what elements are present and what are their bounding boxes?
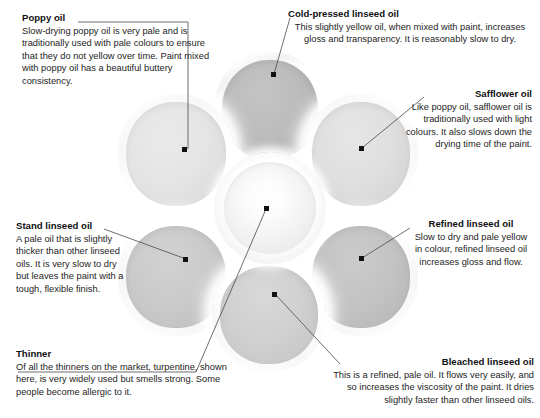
caption-body: Of all the thinners on the market, turpe… <box>16 361 232 399</box>
caption-body: Slow-drying poppy oil is very pale and i… <box>22 25 222 88</box>
dot-refined <box>359 256 364 261</box>
caption-safflower-oil: Safflower oil Like poppy oil, safflower … <box>396 88 532 151</box>
caption-title: Safflower oil <box>396 88 532 101</box>
caption-body: This slightly yellow oil, when mixed wit… <box>288 21 532 46</box>
dot-thinner <box>264 206 269 211</box>
caption-title: Bleached linseed oil <box>330 356 534 369</box>
caption-cold-pressed-linseed-oil: Cold-pressed linseed oil This slightly y… <box>288 8 532 46</box>
caption-body: Like poppy oil, safflower oil is traditi… <box>396 101 532 151</box>
dot-poppy <box>182 147 187 152</box>
caption-title: Thinner <box>16 348 232 361</box>
caption-body: A pale oil that is slightly thicker than… <box>16 233 132 296</box>
caption-title: Poppy oil <box>22 12 222 25</box>
dot-safflower <box>359 146 364 151</box>
dot-bleached <box>272 292 277 297</box>
figure-canvas: Poppy oil Slow-drying poppy oil is very … <box>0 0 540 418</box>
dot-cold-pressed <box>271 72 276 77</box>
caption-refined-linseed-oil: Refined linseed oil Slow to dry and pale… <box>410 218 532 268</box>
caption-title: Refined linseed oil <box>410 218 532 231</box>
caption-body: This is a refined, pale oil. It flows ve… <box>330 369 534 407</box>
leader-bleached <box>275 294 340 364</box>
caption-poppy-oil: Poppy oil Slow-drying poppy oil is very … <box>22 12 222 88</box>
caption-body: Slow to dry and pale yellow in colour, r… <box>410 231 532 269</box>
dot-stand <box>183 257 188 262</box>
caption-thinner: Thinner Of all the thinners on the marke… <box>16 348 232 398</box>
caption-title: Cold-pressed linseed oil <box>288 8 532 21</box>
leader-refined <box>362 228 410 258</box>
caption-title: Stand linseed oil <box>16 220 132 233</box>
caption-stand-linseed-oil: Stand linseed oil A pale oil that is sli… <box>16 220 132 296</box>
caption-bleached-linseed-oil: Bleached linseed oil This is a refined, … <box>330 356 534 406</box>
